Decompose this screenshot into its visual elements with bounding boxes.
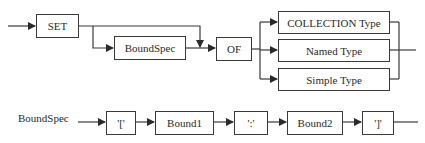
bound2-node: Bound2 (287, 111, 343, 135)
bound1-node: Bound1 (155, 111, 214, 135)
close-bracket-node: ']' (362, 111, 394, 135)
set-node: SET (36, 14, 79, 38)
colon-node: ':' (234, 111, 268, 135)
boundspec-rule-label: BoundSpec (18, 112, 69, 124)
of-node: OF (216, 37, 252, 61)
boundspec-node: BoundSpec (114, 36, 186, 60)
open-bracket-node: '[' (106, 111, 136, 135)
simple-type-node: Simple Type (278, 68, 390, 91)
named-type-node: Named Type (278, 39, 390, 62)
collection-type-node: COLLECTION Type (278, 11, 390, 34)
